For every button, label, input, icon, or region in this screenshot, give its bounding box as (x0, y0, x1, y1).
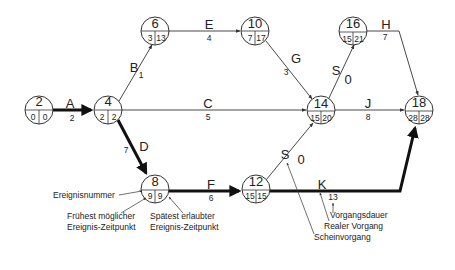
node-4-earliest: 2 (100, 112, 105, 122)
node-18-earliest: 28 (408, 113, 418, 123)
activity-c: C 5 (122, 96, 306, 122)
activity-s-upper-duration: 0 (344, 72, 351, 87)
node-18-latest: 28 (420, 113, 430, 123)
activity-e-label: E (205, 17, 214, 32)
node-14: 14 15 20 (307, 96, 335, 124)
activity-f: F 6 (169, 177, 239, 203)
node-6: 6 3 13 (141, 16, 169, 45)
legend-earliest-line1: Frühest möglicher (67, 211, 135, 221)
node-6-latest: 13 (156, 33, 166, 43)
activity-j-duration: 8 (366, 112, 371, 122)
legend-duration: Vorgangsdauer (330, 203, 388, 220)
activity-d-label: D (139, 139, 148, 154)
node-14-latest: 20 (322, 113, 332, 123)
legend-latest-line1: Spätest erlaubter (150, 211, 215, 221)
activity-a: A 2 (53, 96, 91, 123)
activity-g-duration: 3 (284, 67, 289, 77)
legend-event-number: Ereignisnummer (53, 190, 142, 200)
network-diagram: A 2 B 1 C 5 D 7 E 4 F 6 G 3 S 0 (0, 0, 455, 270)
node-12-earliest: 15 (245, 191, 255, 201)
node-16-latest: 21 (354, 34, 364, 44)
activity-k: K 13 (270, 128, 415, 202)
node-6-number: 6 (151, 16, 158, 31)
node-14-earliest: 15 (310, 113, 320, 123)
node-2-number: 2 (35, 94, 42, 109)
node-8-earliest: 9 (148, 191, 153, 201)
legend-earliest-line2: Ereignis-Zeitpunkt (67, 222, 136, 232)
node-2: 2 0 0 (25, 94, 53, 124)
activity-j: J 8 (335, 96, 404, 122)
activity-e-duration: 4 (207, 33, 212, 43)
node-12: 12 15 15 (242, 174, 270, 203)
node-10: 10 7 17 (241, 16, 269, 45)
activity-h: H 7 (367, 17, 418, 95)
activity-f-label: F (207, 177, 215, 192)
activity-b: B 1 (119, 45, 152, 101)
node-4-number: 4 (104, 94, 111, 109)
node-2-latest: 0 (43, 112, 48, 122)
activity-d: D 7 (118, 120, 149, 173)
node-16-earliest: 15 (342, 34, 352, 44)
node-8-latest: 9 (158, 191, 163, 201)
node-10-earliest: 7 (248, 33, 253, 43)
activity-f-duration: 6 (209, 193, 214, 203)
activity-s-lower-duration: 0 (297, 152, 304, 167)
activity-b-duration: 1 (139, 70, 144, 80)
node-12-number: 12 (249, 174, 263, 189)
node-6-earliest: 3 (148, 33, 153, 43)
node-4-latest: 2 (112, 112, 117, 122)
legend-duration-text: Vorgangsdauer (330, 210, 388, 220)
activity-g: G 3 (266, 41, 312, 99)
node-2-earliest: 0 (31, 112, 36, 122)
activity-b-label: B (130, 60, 139, 75)
legend-event-number-text: Ereignisnummer (53, 190, 115, 200)
activity-s-lower-label: S (281, 147, 290, 162)
node-12-latest: 15 (257, 191, 267, 201)
node-14-number: 14 (314, 96, 328, 111)
node-16-number: 16 (346, 16, 360, 31)
activity-s-upper-label: S (332, 63, 341, 78)
activity-k-duration: 13 (328, 192, 338, 202)
legend-earliest-time: Frühest möglicher Ereignis-Zeitpunkt (67, 198, 146, 232)
activity-h-label: H (381, 17, 390, 32)
node-8-number: 8 (151, 174, 158, 189)
activity-s-upper: S 0 (329, 45, 354, 98)
activity-s-lower: S 0 (266, 123, 313, 180)
node-4: 4 2 2 (94, 94, 122, 124)
activity-g-label: G (291, 51, 301, 66)
node-16: 16 15 21 (339, 16, 367, 45)
node-18-number: 18 (412, 95, 426, 110)
activity-c-label: C (203, 96, 212, 111)
activity-e: E 4 (169, 17, 240, 43)
node-10-latest: 17 (256, 33, 266, 43)
activity-c-duration: 5 (206, 112, 211, 122)
activity-h-duration: 7 (383, 32, 388, 42)
node-18: 18 28 28 (405, 95, 433, 124)
legend-latest-line2: Ereignis-Zeitpunkt (150, 222, 219, 232)
activity-j-label: J (365, 96, 372, 111)
activity-a-label: A (66, 96, 75, 111)
legend-real-activity-text: Realer Vorgang (324, 221, 383, 231)
activity-a-duration: 2 (70, 113, 75, 123)
node-10-number: 10 (248, 16, 262, 31)
legend-dummy-activity-text: Scheinvorgang (314, 232, 371, 242)
activity-d-duration: 7 (124, 145, 129, 155)
activity-k-label: K (318, 177, 327, 192)
